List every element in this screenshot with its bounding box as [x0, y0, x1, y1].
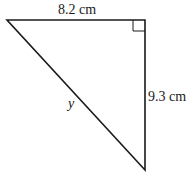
- hypotenuse-label: y: [66, 96, 75, 111]
- top-side-label: 8.2 cm: [58, 2, 96, 17]
- right-side-label: 9.3 cm: [148, 89, 186, 104]
- triangle-diagram: 8.2 cm 9.3 cm y: [0, 0, 190, 181]
- right-angle-marker: [133, 20, 145, 31]
- triangle: [7, 20, 145, 170]
